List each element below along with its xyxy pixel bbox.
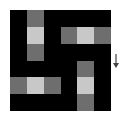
board-cell-car[interactable]: [10, 77, 27, 94]
board-cell-empty: [77, 44, 94, 61]
board-cell-empty: [10, 44, 27, 61]
board-cell-empty: [61, 44, 78, 61]
board-cell-empty: [44, 61, 61, 78]
board-cell-empty: [94, 10, 111, 27]
board-cell-empty: [77, 10, 94, 27]
board-cell-empty: [44, 44, 61, 61]
board-cell-empty: [61, 10, 78, 27]
board-cell-head[interactable]: [27, 27, 44, 44]
board-cell-head[interactable]: [77, 77, 94, 94]
board-cell-empty: [44, 10, 61, 27]
board-cell-car[interactable]: [94, 27, 111, 44]
board-cell-car[interactable]: [77, 94, 94, 111]
game-board[interactable]: [10, 10, 111, 111]
board-cell-empty: [10, 27, 27, 44]
board-cell-empty: [44, 94, 61, 111]
board-cell-empty: [61, 94, 78, 111]
board-cell-empty: [27, 94, 44, 111]
board-cell-empty: [61, 77, 78, 94]
board-cell-car[interactable]: [27, 44, 44, 61]
board-cell-empty: [61, 61, 78, 78]
board-cell-empty: [10, 10, 27, 27]
board-cell-empty: [10, 61, 27, 78]
board-cell-head[interactable]: [77, 27, 94, 44]
arrow-down-icon: [112, 53, 120, 69]
board-cell-car[interactable]: [27, 10, 44, 27]
board-cell-empty: [94, 44, 111, 61]
board-cell-car[interactable]: [61, 27, 78, 44]
board-cell-head[interactable]: [27, 77, 44, 94]
board-cell-empty: [94, 94, 111, 111]
board-cell-empty: [94, 77, 111, 94]
board-cell-empty: [10, 94, 27, 111]
board-cell-empty: [27, 61, 44, 78]
board-cell-car[interactable]: [77, 61, 94, 78]
board-cell-car[interactable]: [44, 77, 61, 94]
board-cell-empty: [44, 27, 61, 44]
board-cell-empty: [94, 61, 111, 78]
